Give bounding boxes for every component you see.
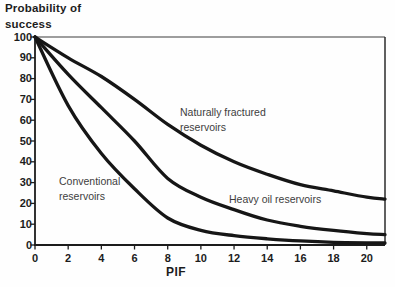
x-tick-label: 20	[356, 252, 378, 264]
label-conventional-reservoirs: Conventional reservoirs	[59, 174, 120, 204]
reservoir-probability-chart: Probability of success Naturally fractur…	[0, 0, 395, 287]
y-tick-label: 80	[6, 72, 32, 84]
y-tick-label: 30	[6, 176, 32, 188]
y-tick-label: 40	[6, 155, 32, 167]
x-tick-label: 10	[190, 252, 212, 264]
x-tick-label: 8	[157, 252, 179, 264]
y-tick-label: 10	[6, 218, 32, 230]
x-tick-label: 16	[289, 252, 311, 264]
label-naturally-fractured-reservoirs: Naturally fractured reservoirs	[180, 105, 266, 135]
x-axis-title: PIF	[160, 265, 192, 279]
plot-area	[0, 0, 395, 287]
x-tick-label: 18	[323, 252, 345, 264]
x-tick-label: 12	[223, 252, 245, 264]
y-tick-label: 0	[6, 239, 32, 251]
label-heavy-oil-reservoirs: Heavy oil reservoirs	[229, 192, 321, 207]
x-tick-label: 2	[57, 252, 79, 264]
x-tick-label: 14	[256, 252, 278, 264]
y-tick-label: 90	[6, 51, 32, 63]
y-tick-label: 60	[6, 114, 32, 126]
x-tick-label: 6	[124, 252, 146, 264]
x-tick-label: 0	[24, 252, 46, 264]
y-tick-label: 50	[6, 135, 32, 147]
x-tick-label: 4	[90, 252, 112, 264]
y-tick-label: 100	[6, 31, 32, 43]
y-tick-label: 70	[6, 93, 32, 105]
y-tick-label: 20	[6, 197, 32, 209]
